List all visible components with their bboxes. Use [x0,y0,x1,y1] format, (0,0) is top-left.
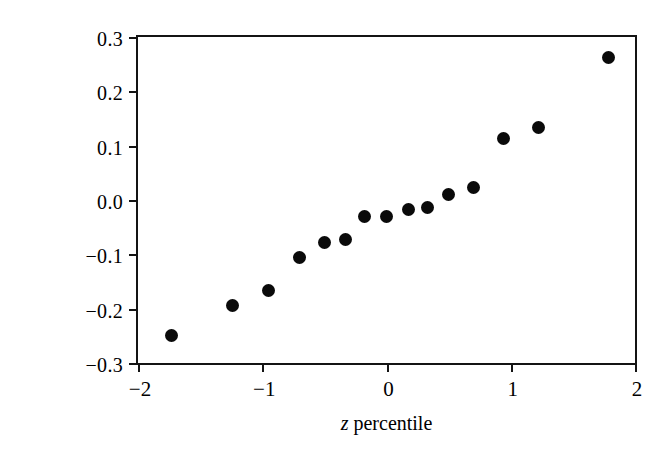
y-axis-tick: 0.3 [129,37,138,39]
normal-probability-plot-figure: 0.30.20.10.0−0.1−0.2−0.3 −2−1012 Effect … [0,0,666,452]
y-axis-tick: 0.0 [129,200,138,202]
scatter-point [467,181,480,194]
y-axis-tick-label: 0.3 [97,29,123,49]
scatter-point [358,210,371,223]
scatter-point [339,233,352,246]
y-axis-tick-label: 0.2 [97,83,123,103]
y-axis-title: Effect estimate [18,0,42,59]
y-axis-tick-label: 0.0 [97,192,123,212]
y-axis-tick: 0.1 [129,146,138,148]
scatter-point [532,121,545,134]
scatter-point [318,236,331,249]
y-axis-tick-label: −0.2 [86,301,123,321]
scatter-point [402,203,415,216]
y-axis-tick: −0.3 [129,363,138,365]
x-axis-title-rest: percentile [348,412,432,434]
x-axis-tick: 2 [635,363,637,372]
x-axis-tick-label: −1 [253,379,275,400]
scatter-point [165,329,178,342]
scatter-points-layer [138,37,635,363]
x-axis-tick: 0 [387,363,389,372]
scatter-point [262,284,275,297]
x-axis-tick: 1 [511,363,513,372]
y-axis-tick-label: −0.1 [86,246,123,266]
x-axis-title: z percentile [136,413,637,433]
y-axis-tick: −0.2 [129,309,138,311]
x-axis-tick-label: 1 [508,379,519,400]
x-axis-tick: −2 [138,363,140,372]
scatter-point [497,132,510,145]
scatter-point [226,299,239,312]
plot-area-frame: 0.30.20.10.0−0.1−0.2−0.3 −2−1012 [136,35,637,365]
scatter-point [421,201,434,214]
scatter-point [380,210,393,223]
x-axis-tick-label: 2 [632,379,643,400]
x-axis-tick-label: 0 [383,379,394,400]
y-axis-tick-label: 0.1 [97,138,123,158]
y-axis-tick: −0.1 [129,254,138,256]
scatter-point [602,51,615,64]
y-axis-tick-label: −0.3 [86,355,123,375]
scatter-point [293,251,306,264]
x-axis-tick-label: −2 [129,379,151,400]
y-axis-tick: 0.2 [129,91,138,93]
scatter-point [442,188,455,201]
x-axis-tick: −1 [262,363,264,372]
